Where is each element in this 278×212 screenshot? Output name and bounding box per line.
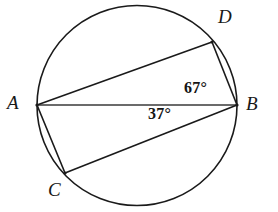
vertex-label-a: A (7, 93, 19, 112)
vertex-label-c: C (48, 180, 61, 199)
chord-db (212, 42, 237, 105)
angle-label-abc: 37° (148, 106, 171, 122)
vertex-point-d (210, 40, 213, 43)
vertex-label-d: D (218, 7, 232, 26)
vertex-point-a (35, 103, 38, 106)
geometry-figure: A B C D 67° 37° (0, 0, 278, 212)
vertex-point-b (235, 103, 238, 106)
vertex-label-b: B (246, 94, 258, 113)
vertex-point-c (63, 171, 66, 174)
chord-ac (37, 105, 65, 173)
geometry-canvas (0, 0, 278, 212)
angle-label-dba: 67° (184, 80, 207, 96)
